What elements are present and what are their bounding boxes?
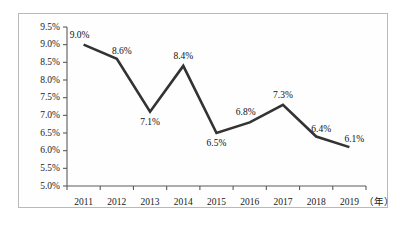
x-tick-label: 2013 — [141, 197, 160, 207]
x-tick-label: 2012 — [107, 197, 126, 207]
chart-figure: 5.0%5.5%6.0%6.5%7.0%7.5%8.0%8.5%9.0%9.5%… — [18, 13, 388, 208]
data-point-label: 8.4% — [173, 51, 193, 61]
data-series-line — [84, 45, 350, 147]
data-point-label: 7.1% — [140, 117, 160, 127]
y-tick-label: 6.5% — [40, 128, 60, 138]
y-axis-group: 5.0%5.5%6.0%6.5%7.0%7.5%8.0%8.5%9.0%9.5% — [40, 22, 67, 191]
x-tick-label: 2018 — [307, 197, 326, 207]
y-tick-marks — [63, 27, 67, 186]
data-point-label: 6.4% — [311, 124, 331, 134]
y-tick-label: 8.5% — [40, 57, 60, 67]
line-chart-plot: 5.0%5.5%6.0%6.5%7.0%7.5%8.0%8.5%9.0%9.5%… — [19, 14, 389, 209]
data-point-label: 6.5% — [207, 138, 227, 148]
y-tick-label: 5.0% — [40, 181, 60, 191]
data-point-label: 9.0% — [70, 30, 90, 40]
x-tick-labels: 201120122013201420152016201720182019 — [74, 197, 359, 207]
y-tick-label: 8.0% — [40, 75, 60, 85]
data-point-label: 8.6% — [112, 46, 132, 56]
y-tick-label: 7.5% — [40, 92, 60, 102]
x-tick-label: 2014 — [174, 197, 193, 207]
y-tick-label: 7.0% — [40, 110, 60, 120]
x-axis-unit-label: （年） — [364, 196, 389, 207]
y-tick-label: 9.0% — [40, 39, 60, 49]
x-tick-label: 2016 — [240, 197, 259, 207]
data-point-labels: 9.0%8.6%7.1%8.4%6.5%6.8%7.3%6.4%6.1% — [70, 30, 365, 148]
data-point-label: 6.8% — [236, 107, 256, 117]
x-tick-label: 2011 — [74, 197, 93, 207]
x-tick-label: 2019 — [340, 197, 359, 207]
y-tick-label: 9.5% — [40, 22, 60, 32]
y-tick-labels: 5.0%5.5%6.0%6.5%7.0%7.5%8.0%8.5%9.0%9.5% — [40, 22, 60, 191]
y-tick-label: 5.5% — [40, 163, 60, 173]
x-tick-label: 2015 — [207, 197, 226, 207]
x-axis-group: 201120122013201420152016201720182019 （年） — [67, 186, 389, 207]
data-point-label: 6.1% — [344, 134, 364, 144]
x-tick-label: 2017 — [273, 197, 292, 207]
y-tick-label: 6.0% — [40, 145, 60, 155]
data-point-label: 7.3% — [273, 90, 293, 100]
x-tick-marks — [67, 186, 366, 190]
